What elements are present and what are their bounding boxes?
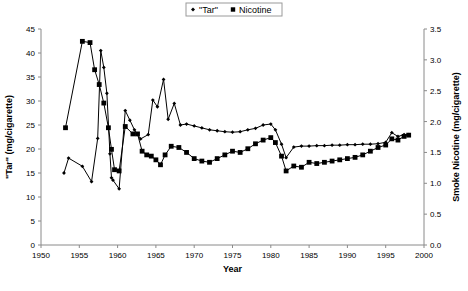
marker-square — [192, 156, 197, 161]
marker-square — [368, 149, 373, 154]
marker-square — [149, 154, 154, 159]
y-tick-label-left: 35 — [26, 73, 35, 82]
marker-square — [273, 140, 278, 145]
x-tick-label: 1960 — [109, 251, 127, 260]
plot-frame — [41, 29, 424, 245]
marker-diamond — [192, 124, 196, 128]
marker-diamond — [128, 118, 132, 122]
marker-square — [291, 164, 296, 169]
marker-square — [215, 156, 220, 161]
marker-square — [376, 145, 381, 150]
marker-diamond — [96, 137, 100, 141]
marker-square — [345, 156, 350, 161]
marker-square — [140, 149, 145, 154]
marker-diamond — [179, 123, 183, 127]
marker-diamond — [238, 130, 242, 134]
marker-square — [261, 138, 266, 143]
marker-square — [307, 160, 312, 165]
marker-diamond — [108, 152, 112, 156]
y-tick-label-right: 1.0 — [430, 179, 442, 188]
marker-diamond — [208, 128, 212, 132]
marker-square — [199, 159, 204, 164]
marker-diamond — [330, 143, 334, 147]
marker-diamond — [261, 123, 265, 127]
marker-square — [101, 101, 106, 106]
marker-diamond — [215, 129, 219, 133]
marker-square — [109, 147, 114, 152]
marker-square — [396, 138, 401, 143]
marker-square — [117, 169, 122, 174]
marker-square — [207, 160, 212, 165]
marker-diamond — [146, 133, 150, 137]
marker-square — [123, 124, 128, 129]
y-tick-label-left: 10 — [26, 193, 35, 202]
marker-square — [406, 133, 411, 138]
y-tick-label-right: 2.5 — [430, 87, 442, 96]
marker-diamond — [123, 109, 127, 113]
x-tick-label: 1995 — [377, 251, 395, 260]
marker-diamond — [166, 117, 170, 121]
marker-diamond — [62, 171, 66, 175]
y-tick-label-left: 0 — [31, 241, 36, 250]
marker-diamond — [353, 143, 357, 147]
marker-square — [389, 136, 394, 141]
marker-diamond — [185, 122, 189, 126]
x-tick-label: 2000 — [415, 251, 433, 260]
marker-square — [353, 155, 358, 160]
marker-square — [322, 160, 327, 165]
y-tick-label-right: 2.0 — [430, 118, 442, 127]
marker-square — [402, 134, 407, 139]
marker-diamond — [102, 66, 106, 70]
y-axis-title-right: Smoke Nicotine (mg/cigarette) — [451, 72, 461, 202]
marker-square — [245, 146, 250, 151]
marker-square — [131, 132, 136, 137]
marker-diamond — [368, 142, 372, 146]
x-tick-label: 1980 — [262, 251, 280, 260]
marker-diamond — [223, 130, 227, 134]
marker-diamond — [315, 144, 319, 148]
legend-label: Nicotine — [239, 5, 272, 15]
marker-diamond — [99, 49, 103, 53]
y-tick-label-left: 20 — [26, 145, 35, 154]
y-axis-title-left: "Tar" (mg/cigarette) — [4, 95, 14, 179]
marker-square — [163, 152, 168, 157]
marker-square — [106, 125, 111, 130]
marker-square — [176, 145, 181, 150]
marker-diamond — [346, 143, 350, 147]
marker-square — [383, 143, 388, 148]
marker-square — [299, 165, 304, 170]
chart-legend: "Tar"Nicotine — [186, 3, 282, 16]
x-tick-label: 1955 — [70, 251, 88, 260]
y-tick-label-right: 1.5 — [430, 148, 442, 157]
series-nicotine — [63, 39, 411, 173]
tar-nicotine-chart: 1950195519601965197019751980198519901995… — [0, 0, 468, 291]
marker-square — [88, 40, 93, 45]
marker-square — [169, 144, 174, 149]
marker-square — [253, 141, 258, 146]
x-axis-title: Year — [223, 264, 243, 274]
marker-square — [97, 82, 102, 87]
marker-square — [330, 159, 335, 164]
marker-square — [238, 150, 243, 155]
marker-square — [154, 157, 159, 162]
marker-square — [314, 161, 319, 166]
y-tick-label-right: 3.5 — [430, 25, 442, 34]
y-tick-label-left: 15 — [26, 169, 35, 178]
y-tick-label-left: 25 — [26, 121, 35, 130]
marker-square — [279, 154, 284, 159]
chart-container: 1950195519601965197019751980198519901995… — [0, 0, 468, 291]
marker-square — [360, 152, 365, 157]
marker-diamond — [300, 144, 304, 148]
y-tick-label-right: 3.0 — [430, 56, 442, 65]
marker-diamond — [254, 126, 258, 130]
marker-diamond — [172, 102, 176, 106]
marker-diamond — [361, 142, 365, 146]
marker-diamond — [307, 144, 311, 148]
marker-square — [112, 167, 117, 172]
marker-square — [222, 152, 227, 157]
marker-square — [92, 67, 97, 72]
x-tick-label: 1970 — [185, 251, 203, 260]
marker-square — [284, 169, 289, 174]
marker-square — [184, 150, 189, 155]
marker-diamond — [376, 142, 380, 146]
